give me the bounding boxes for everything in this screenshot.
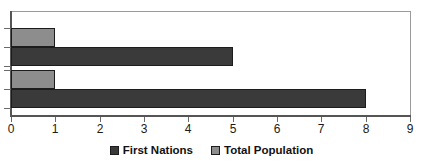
bar-chart: 0123456789 First NationsTotal Population [0,0,423,168]
bar-total-population [11,28,55,47]
chart-legend: First NationsTotal Population [0,140,423,160]
legend-swatch-icon [211,146,220,155]
bar-total-population [11,70,55,89]
bar-first-nations [11,47,233,66]
legend-item[interactable]: First Nations [110,144,193,157]
legend-item-label: First Nations [123,144,193,157]
legend-swatch-icon [110,146,119,155]
bar-first-nations [11,89,366,108]
legend-item[interactable]: Total Population [211,144,313,157]
legend-item-label: Total Population [224,144,313,157]
